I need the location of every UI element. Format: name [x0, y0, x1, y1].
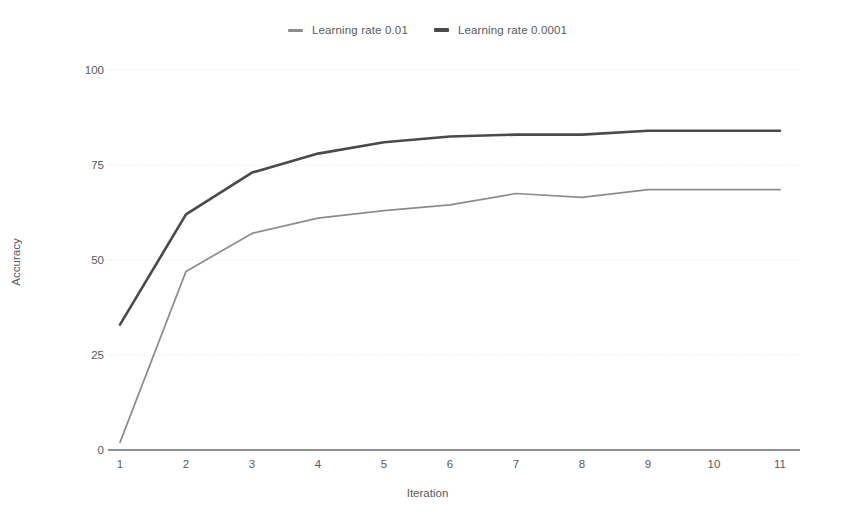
- x-tick-label: 8: [579, 458, 585, 470]
- x-axis-title: Iteration: [0, 487, 855, 499]
- x-tick-label: 2: [183, 458, 189, 470]
- x-tick-label: 1: [117, 458, 123, 470]
- gridlines: [108, 70, 800, 355]
- y-tick-label: 100: [60, 64, 104, 76]
- plot-area: [0, 0, 855, 525]
- x-tick-label: 11: [774, 458, 786, 470]
- y-axis-ticks: 0255075100: [60, 0, 104, 525]
- y-tick-label: 0: [60, 444, 104, 456]
- y-tick-label: 75: [60, 159, 104, 171]
- series-line-1[interactable]: [120, 131, 780, 325]
- x-tick-label: 3: [249, 458, 255, 470]
- x-tick-label: 9: [645, 458, 651, 470]
- y-axis-title: Accuracy: [10, 238, 22, 285]
- series-lines: [120, 131, 780, 443]
- x-tick-label: 10: [708, 458, 721, 470]
- x-tick-label: 6: [447, 458, 453, 470]
- y-tick-label: 25: [60, 349, 104, 361]
- x-tick-label: 7: [513, 458, 519, 470]
- x-tick-label: 4: [315, 458, 321, 470]
- y-tick-label: 50: [60, 254, 104, 266]
- line-chart: Learning rate 0.01 Learning rate 0.0001 …: [0, 0, 855, 525]
- series-line-0[interactable]: [120, 190, 780, 443]
- x-tick-label: 5: [381, 458, 387, 470]
